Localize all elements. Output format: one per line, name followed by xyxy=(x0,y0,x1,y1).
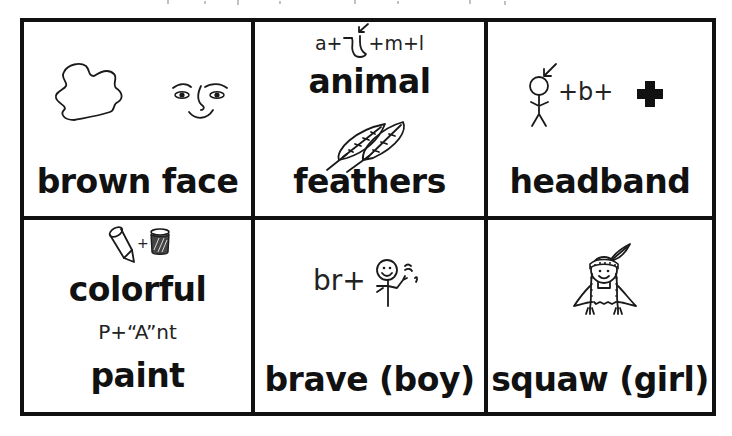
vocabulary-card-grid: brown face a++m+l animal feathers +b+ he… xyxy=(20,18,716,416)
word-label: brave (boy) xyxy=(255,360,484,399)
leg-arrow-icon xyxy=(342,30,368,58)
card-animal-feathers: a++m+l animal feathers xyxy=(255,22,488,220)
word-label: brown face xyxy=(24,162,251,201)
cropped-text-fragments xyxy=(0,0,732,6)
word-label-top: colorful xyxy=(24,270,251,309)
crayon-icon xyxy=(108,226,138,264)
waving-stick-figure-icon xyxy=(375,258,425,310)
word-label: paint xyxy=(24,356,251,395)
hint-a: a+ xyxy=(315,32,343,54)
card-brave-boy: br+ brave (boy) xyxy=(255,220,488,412)
girl-with-headband-feather-icon xyxy=(574,244,639,316)
plus-sign: + xyxy=(137,235,149,251)
phonetic-hint: br+ xyxy=(313,264,366,297)
hint-rest: +m+l xyxy=(368,32,424,54)
stick-figure-head-arrow-icon xyxy=(528,62,558,132)
word-label: headband xyxy=(488,162,712,201)
phonetic-hint: P+“A”nt xyxy=(24,320,251,344)
phonetic-hint: a++m+l xyxy=(255,30,484,58)
card-colorful-paint: + colorful P+“A”nt paint xyxy=(24,220,255,412)
word-label: squaw (girl) xyxy=(488,360,712,399)
card-squaw-girl: squaw (girl) xyxy=(488,220,712,412)
phonetic-hint: +b+ xyxy=(558,78,613,106)
paint-jar-icon xyxy=(149,228,171,256)
smiling-face-icon xyxy=(169,80,234,130)
card-brown-face: brown face xyxy=(24,22,255,220)
brown-blob-icon xyxy=(54,60,129,120)
word-label-top: animal xyxy=(255,62,484,101)
word-label: feathers xyxy=(255,162,484,201)
card-headband: +b+ headband xyxy=(488,22,712,220)
plus-cross-icon xyxy=(636,80,664,108)
